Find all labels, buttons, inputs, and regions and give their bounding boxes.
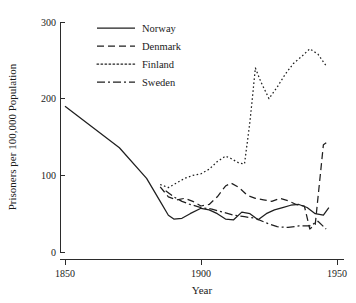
x-axis-ticks: 185019001950: [55, 259, 347, 279]
chart-legend: NorwayDenmarkFinlandSweden: [97, 23, 182, 88]
series-line-sweden: [166, 191, 326, 229]
series-line-finland: [160, 49, 326, 188]
series-lines: [65, 49, 329, 229]
x-tick-label: 1950: [327, 268, 347, 279]
x-axis-title: Year: [192, 284, 213, 296]
legend-label-norway: Norway: [142, 23, 177, 34]
y-tick-label: 0: [51, 247, 56, 258]
y-axis-ticks: 0100200300: [41, 17, 65, 258]
line-chart: 0100200300 185019001950 Prisoners per 10…: [0, 0, 356, 303]
legend-label-denmark: Denmark: [142, 41, 182, 52]
y-tick-label: 200: [41, 93, 56, 104]
x-tick-label: 1900: [191, 268, 211, 279]
y-tick-label: 300: [41, 17, 56, 28]
legend-label-finland: Finland: [142, 59, 175, 70]
chart-canvas: 0100200300 185019001950 Prisoners per 10…: [0, 0, 356, 303]
legend-label-sweden: Sweden: [142, 77, 176, 88]
x-tick-label: 1850: [55, 268, 75, 279]
y-axis-title: Prisoners per 100,000 Population: [6, 63, 18, 210]
y-tick-label: 100: [41, 170, 56, 181]
series-line-norway: [65, 106, 329, 219]
